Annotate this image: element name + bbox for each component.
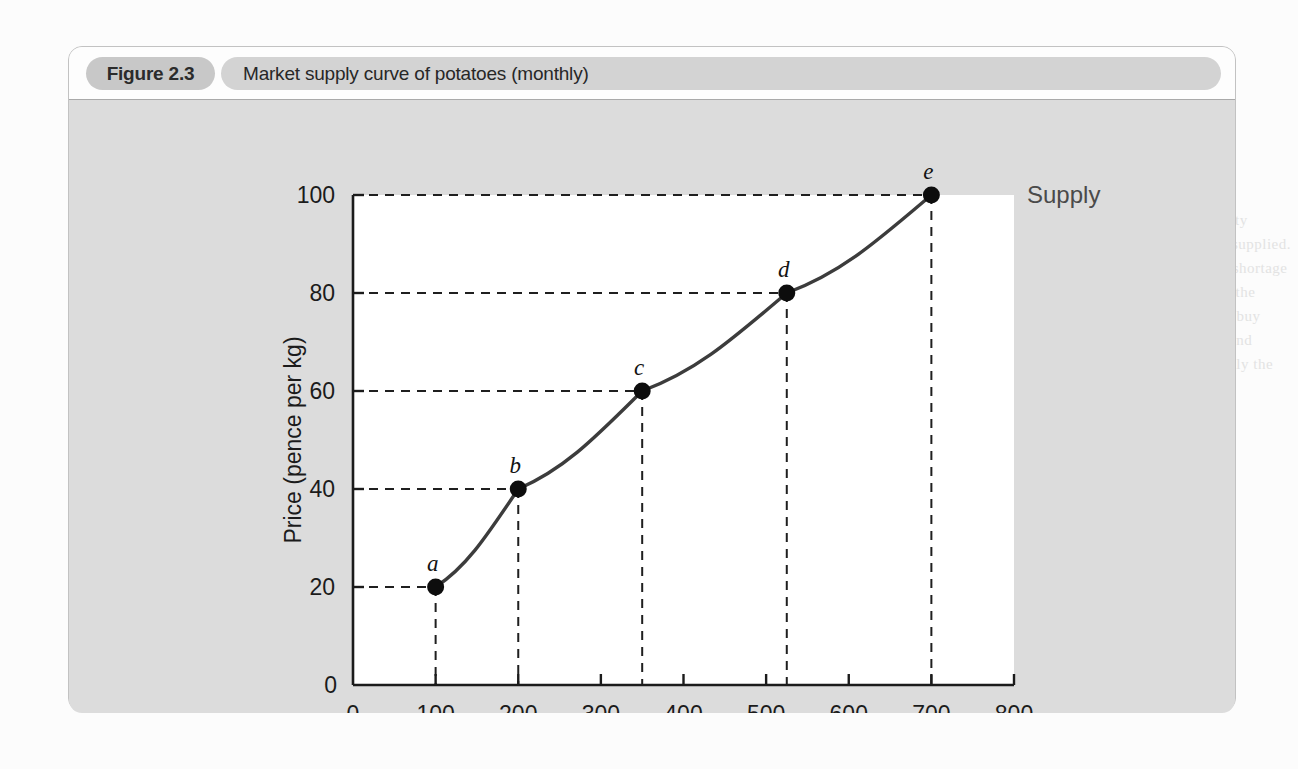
data-point-e[interactable] — [923, 187, 940, 204]
x-tick-label: 200 — [499, 701, 537, 713]
x-tick-label: 500 — [747, 701, 785, 713]
data-point-label-c: c — [634, 355, 644, 380]
figure-title-label: Market supply curve of potatoes (monthly… — [221, 63, 589, 85]
y-tick-label: 60 — [309, 378, 335, 404]
plot-panel — [353, 195, 1014, 685]
x-tick-label: 700 — [912, 701, 950, 713]
data-point-b[interactable] — [510, 481, 527, 498]
supply-curve-label: Supply — [1027, 181, 1100, 208]
y-origin-label: 0 — [324, 672, 337, 698]
y-tick-label: 100 — [297, 182, 335, 208]
chart-canvas: 100200300400500600700800 20406080100 abc… — [69, 100, 1237, 713]
x-tick-label: 600 — [830, 701, 868, 713]
y-tick-label: 40 — [309, 476, 335, 502]
y-tick-label: 20 — [309, 574, 335, 600]
data-point-label-b: b — [510, 453, 522, 478]
figure-number-label: Figure 2.3 — [107, 63, 195, 85]
x-tick-label: 300 — [582, 701, 620, 713]
x-tick-label: 400 — [664, 701, 702, 713]
supply-curve-chart: 100200300400500600700800 20406080100 abc… — [69, 100, 1237, 713]
x-axis-tick-labels: 100200300400500600700800 — [416, 701, 1033, 713]
page-background: Equilibrium price the supply curve. This… — [0, 0, 1298, 769]
figure-number-badge: Figure 2.3 — [86, 57, 215, 90]
figure-body: 100200300400500600700800 20406080100 abc… — [69, 100, 1235, 713]
x-tick-label: 800 — [995, 701, 1033, 713]
y-axis-title: Price (pence per kg) — [280, 336, 306, 543]
figure-header: Figure 2.3 Market supply curve of potato… — [69, 47, 1235, 100]
data-point-label-e: e — [923, 159, 933, 184]
figure-title-bar: Market supply curve of potatoes (monthly… — [221, 57, 1221, 90]
data-point-c[interactable] — [634, 383, 651, 400]
data-point-label-a: a — [427, 551, 439, 576]
data-point-d[interactable] — [778, 285, 795, 302]
x-tick-label: 100 — [416, 701, 454, 713]
data-point-a[interactable] — [427, 579, 444, 596]
data-point-label-d: d — [778, 257, 790, 282]
x-origin-label: 0 — [347, 701, 360, 713]
y-tick-label: 80 — [309, 280, 335, 306]
figure-card: Figure 2.3 Market supply curve of potato… — [68, 46, 1236, 712]
